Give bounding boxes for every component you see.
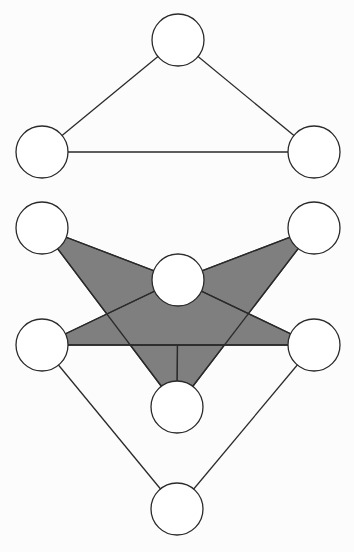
graph-diagram (0, 0, 354, 552)
node-upper-right (288, 202, 340, 254)
node-bottom (151, 483, 203, 535)
node-t-right (288, 126, 340, 178)
node-center (152, 254, 204, 306)
node-t-top (152, 14, 204, 66)
nodes (16, 14, 340, 535)
node-lower-center (151, 381, 203, 433)
node-mid-left (16, 319, 68, 371)
node-mid-right (288, 319, 340, 371)
node-t-left (16, 126, 68, 178)
node-upper-left (16, 202, 68, 254)
